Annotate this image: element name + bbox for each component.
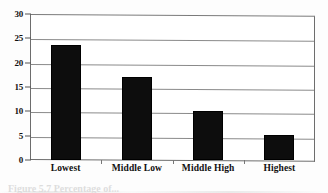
y-tick-label-30: 30: [14, 9, 23, 19]
y-tick-mark: [25, 62, 31, 63]
x-tick-label-highest: Highest: [244, 163, 315, 173]
y-tick-mark: [25, 14, 31, 15]
bar-slot: [30, 14, 101, 160]
bar-middle-high[interactable]: [193, 111, 223, 160]
x-tick-label-middle-high: Middle High: [173, 163, 244, 173]
y-tick-label-15: 15: [14, 82, 23, 92]
bars-layer: [30, 14, 315, 160]
y-tick-mark: [25, 111, 31, 112]
y-tick-label-25: 25: [14, 33, 23, 43]
y-tick-label-20: 20: [14, 58, 23, 68]
x-axis: Lowest Middle Low Middle High Highest: [30, 163, 315, 179]
bar-lowest[interactable]: [51, 45, 81, 160]
y-tick-mark: [25, 38, 31, 39]
scan-edge-artifact: [0, 191, 328, 193]
y-tick-label-5: 5: [19, 131, 23, 141]
y-tick-label-10: 10: [14, 106, 23, 116]
y-axis: 30 25 20 15 10 5 0: [0, 0, 30, 175]
y-tick-mark: [25, 135, 31, 136]
bar-slot: [244, 14, 315, 160]
bar-highest[interactable]: [264, 135, 294, 160]
bar-slot: [101, 14, 172, 160]
y-tick-label-0: 0: [19, 155, 23, 165]
y-tick-mark: [25, 160, 31, 161]
x-tick-label-lowest: Lowest: [30, 163, 101, 173]
bar-chart-figure: 30 25 20 15 10 5 0 Lowest Middle Low Mid…: [0, 0, 328, 193]
bar-middle-low[interactable]: [122, 77, 152, 160]
x-tick-label-middle-low: Middle Low: [101, 163, 172, 173]
y-tick-mark: [25, 87, 31, 88]
bar-slot: [173, 14, 244, 160]
